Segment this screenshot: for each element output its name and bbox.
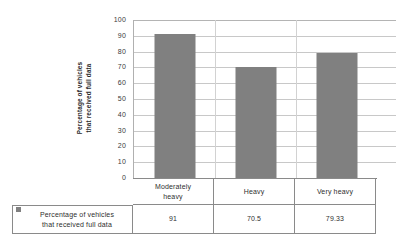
y-tick-label: 90 xyxy=(118,32,126,40)
category-label-line-1: Moderately xyxy=(155,183,191,190)
series-legend-cell: Percentage of vehicles that received ful… xyxy=(12,205,133,234)
category-header-moderately-heavy: Moderately heavy xyxy=(133,178,214,205)
y-axis-tick-labels: 100 90 80 70 60 50 40 30 20 10 0 xyxy=(100,14,129,182)
category-label: Very heavy xyxy=(317,187,353,197)
category-separator xyxy=(215,20,216,178)
bar-series xyxy=(134,20,377,178)
category-header-very-heavy: Very heavy xyxy=(295,178,376,205)
bar-slot xyxy=(134,20,215,178)
table-corner-cell xyxy=(12,178,133,205)
category-separator xyxy=(296,20,297,178)
bar-slot xyxy=(215,20,296,178)
category-label: Heavy xyxy=(244,187,265,197)
y-tick-label: 70 xyxy=(118,63,126,71)
legend-label: Percentage of vehicles that received ful… xyxy=(24,210,132,230)
value-cell-heavy: 70.5 xyxy=(214,205,295,234)
y-axis-title-line-2: that received full data xyxy=(85,63,92,132)
y-tick-label: 80 xyxy=(118,48,126,56)
bar-slot xyxy=(296,20,377,178)
value-cell-very-heavy: 79.33 xyxy=(295,205,376,234)
y-tick-label: 50 xyxy=(118,95,126,103)
category-header-heavy: Heavy xyxy=(214,178,295,205)
value-cell-moderately-heavy: 91 xyxy=(133,205,214,234)
bar-very-heavy[interactable] xyxy=(316,53,357,178)
y-tick-label: 100 xyxy=(114,16,126,24)
category-label-line-2: heavy xyxy=(163,193,182,200)
legend-label-line-1: Percentage of vehicles xyxy=(40,211,114,218)
y-axis-title: Percentage of vehicles that received ful… xyxy=(68,18,100,178)
legend-label-line-2: that received full data xyxy=(42,221,112,228)
bar-chart-with-data-table: Percentage of vehicles that received ful… xyxy=(0,0,399,244)
table-row-values: Percentage of vehicles that received ful… xyxy=(12,205,376,234)
y-tick-label: 20 xyxy=(118,142,126,150)
y-tick-label: 30 xyxy=(118,127,126,135)
y-tick-label: 10 xyxy=(118,158,126,166)
legend-swatch-icon xyxy=(16,207,21,212)
table-row-categories: Moderately heavy Heavy Very heavy xyxy=(12,178,376,205)
y-tick-label: 60 xyxy=(118,79,126,87)
y-axis-title-line-1: Percentage of vehicles xyxy=(76,62,83,135)
bar-moderately-heavy[interactable] xyxy=(154,34,195,178)
bar-heavy[interactable] xyxy=(235,67,276,178)
y-tick-label: 40 xyxy=(118,111,126,119)
data-table: Moderately heavy Heavy Very heavy Percen… xyxy=(12,178,376,234)
plot-area xyxy=(133,20,377,179)
